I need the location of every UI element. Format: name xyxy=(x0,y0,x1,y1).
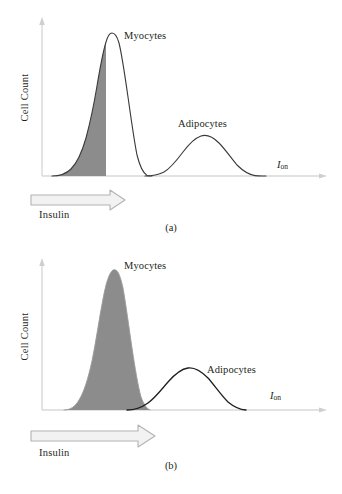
insulin-arrow xyxy=(31,425,155,447)
adipocytes-curve xyxy=(145,135,266,176)
panel-caption-a: (a) xyxy=(0,222,342,233)
insulin-label-b: Insulin xyxy=(39,447,70,458)
panel-b: Cell Count Myocytes Adipocytes Ion Insul… xyxy=(0,247,342,494)
x-axis-subscript-a: on xyxy=(281,162,289,171)
adipocytes-label-b: Adipocytes xyxy=(207,364,256,375)
figure-container: Cell Count Myocytes Adipocytes Ion Insul… xyxy=(0,0,342,494)
insulin-label-a: Insulin xyxy=(39,209,70,220)
y-axis xyxy=(39,258,45,410)
insulin-arrow xyxy=(31,190,125,210)
y-axis-label-a: Cell Count xyxy=(19,58,30,138)
x-axis-label-a: Ion xyxy=(277,159,288,171)
panel-a: Cell Count Myocytes Adipocytes Ion Insul… xyxy=(0,0,342,247)
myocytes-shaded-area xyxy=(64,270,155,410)
y-axis xyxy=(39,17,45,176)
adipocytes-label-a: Adipocytes xyxy=(178,118,227,129)
y-axis-label-b: Cell Count xyxy=(19,297,30,377)
x-axis-label-b: Ion xyxy=(270,390,281,402)
myocytes-label-b: Myocytes xyxy=(124,260,166,271)
x-axis-subscript-b: on xyxy=(274,393,282,402)
myocytes-label-a: Myocytes xyxy=(124,30,166,41)
panel-caption-b: (b) xyxy=(0,460,342,471)
